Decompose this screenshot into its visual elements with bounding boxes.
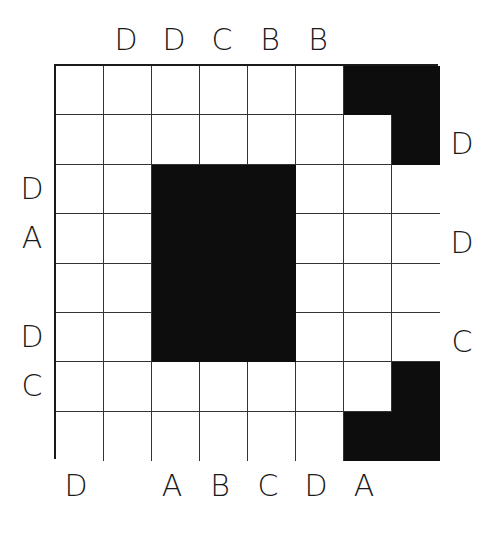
black-cell[interactable] (200, 214, 248, 263)
grid-cell[interactable] (56, 66, 104, 115)
clue-bottom-6: A (349, 471, 379, 501)
clue-top-5: B (303, 25, 333, 55)
grid-cell[interactable] (296, 412, 344, 461)
grid-cell[interactable] (104, 362, 152, 411)
grid-cell[interactable] (104, 115, 152, 164)
grid-cell[interactable] (248, 362, 296, 411)
clue-left-2: D (17, 174, 47, 204)
grid-cell[interactable] (200, 66, 248, 115)
grid-cell[interactable] (200, 412, 248, 461)
grid-cell[interactable] (104, 313, 152, 362)
black-cell[interactable] (200, 264, 248, 313)
grid-cell[interactable] (104, 165, 152, 214)
grid-cell[interactable] (248, 115, 296, 164)
grid-cell[interactable] (152, 412, 200, 461)
grid-cell[interactable] (296, 66, 344, 115)
clue-left-5: D (17, 322, 47, 352)
grid-cell[interactable] (56, 214, 104, 263)
clue-top-4: B (255, 25, 285, 55)
grid-cell[interactable] (248, 66, 296, 115)
grid-cell[interactable] (344, 362, 392, 411)
clue-left-6: C (17, 371, 47, 401)
clue-top-3: C (207, 25, 237, 55)
clue-top-1: D (111, 25, 141, 55)
black-cell[interactable] (200, 165, 248, 214)
grid-cell[interactable] (152, 66, 200, 115)
grid-cell[interactable] (296, 115, 344, 164)
grid-cell[interactable] (392, 264, 440, 313)
grid-cell[interactable] (344, 214, 392, 263)
black-cell[interactable] (248, 165, 296, 214)
clue-bottom-2: A (157, 471, 187, 501)
black-cell[interactable] (344, 412, 392, 461)
grid-cell[interactable] (104, 66, 152, 115)
grid-cell[interactable] (152, 115, 200, 164)
black-cell[interactable] (392, 115, 440, 164)
grid-cell[interactable] (392, 165, 440, 214)
clue-left-3: A (17, 223, 47, 253)
grid-cell[interactable] (56, 264, 104, 313)
clue-bottom-3: B (205, 471, 235, 501)
black-cell[interactable] (392, 362, 440, 411)
clue-bottom-5: D (301, 471, 331, 501)
grid-cell[interactable] (56, 165, 104, 214)
clue-bottom-0: D (61, 471, 91, 501)
grid-cell[interactable] (200, 115, 248, 164)
grid-cell[interactable] (392, 313, 440, 362)
grid-cell[interactable] (104, 264, 152, 313)
grid-cell[interactable] (56, 313, 104, 362)
black-cell[interactable] (152, 165, 200, 214)
black-cell[interactable] (152, 313, 200, 362)
black-cell[interactable] (152, 264, 200, 313)
black-cell[interactable] (200, 313, 248, 362)
clue-right-1: D (447, 129, 477, 159)
black-cell[interactable] (248, 313, 296, 362)
grid-cell[interactable] (296, 313, 344, 362)
clue-right-5: C (447, 327, 477, 357)
clue-right-3: D (447, 228, 477, 258)
grid-cell[interactable] (392, 214, 440, 263)
grid-cell[interactable] (104, 412, 152, 461)
grid-cell[interactable] (344, 313, 392, 362)
grid-cell[interactable] (152, 362, 200, 411)
grid-cell[interactable] (296, 362, 344, 411)
grid-cell[interactable] (296, 264, 344, 313)
black-cell[interactable] (344, 66, 392, 115)
clue-top-2: D (159, 25, 189, 55)
puzzle-grid (54, 64, 438, 459)
grid-cell[interactable] (56, 412, 104, 461)
grid-cell[interactable] (344, 115, 392, 164)
grid-cell[interactable] (56, 115, 104, 164)
black-cell[interactable] (248, 264, 296, 313)
black-cell[interactable] (152, 214, 200, 263)
black-cell[interactable] (392, 412, 440, 461)
grid-cell[interactable] (344, 264, 392, 313)
grid-cell[interactable] (56, 362, 104, 411)
black-cell[interactable] (248, 214, 296, 263)
grid-cell[interactable] (200, 362, 248, 411)
grid-cell[interactable] (296, 165, 344, 214)
black-cell[interactable] (392, 66, 440, 115)
clue-bottom-4: C (253, 471, 283, 501)
grid-cell[interactable] (344, 165, 392, 214)
grid-cell[interactable] (296, 214, 344, 263)
grid-cell[interactable] (104, 214, 152, 263)
grid-cell[interactable] (248, 412, 296, 461)
